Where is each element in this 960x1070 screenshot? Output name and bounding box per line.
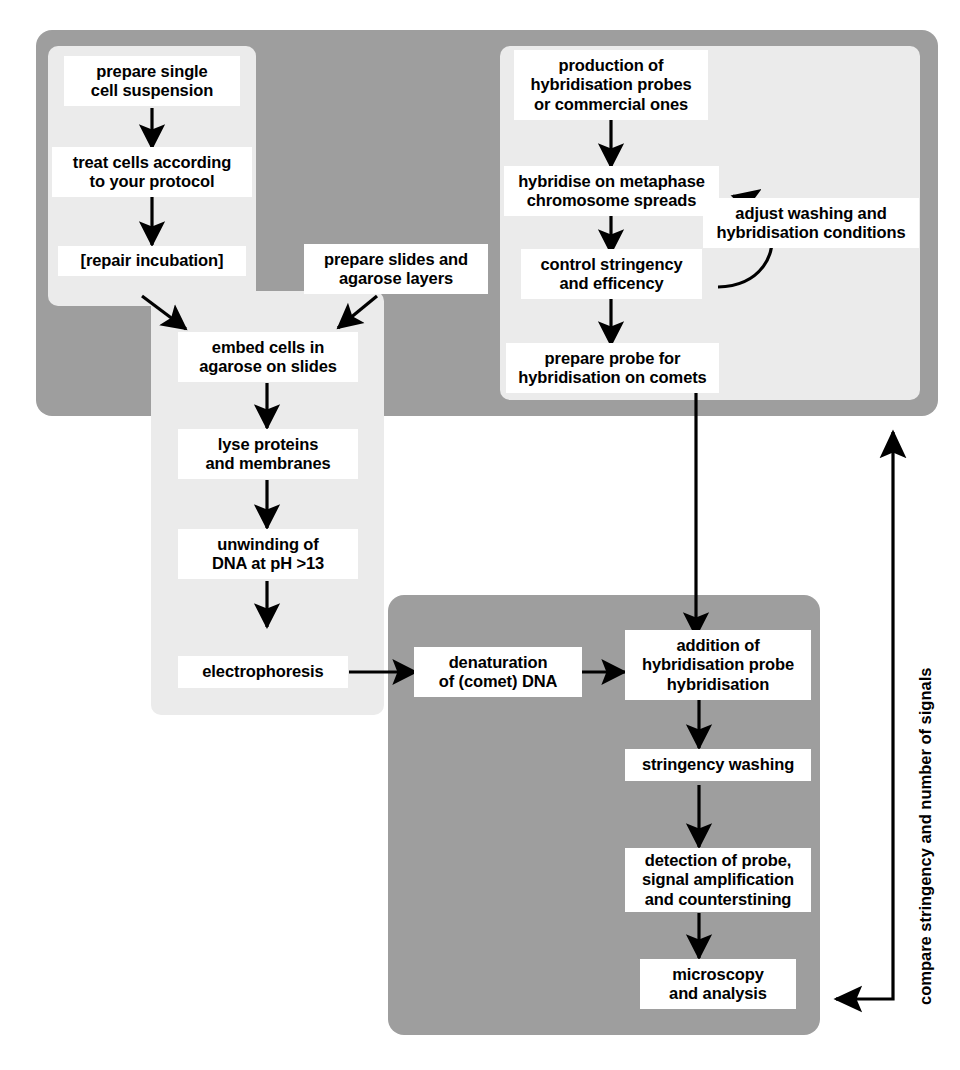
node-repair-incubation[interactable]: [repair incubation]: [58, 246, 246, 276]
node-production-of-hybridisation-probes[interactable]: production of hybridisation probes or co…: [514, 50, 708, 120]
node-electrophoresis[interactable]: electrophoresis: [178, 656, 348, 688]
node-stringency-washing[interactable]: stringency washing: [625, 749, 811, 781]
node-hybridise-on-metaphase-chromosome-spreads[interactable]: hybridise on metaphase chromosome spread…: [504, 166, 719, 216]
flowchart-canvas: prepare single cell suspension treat cel…: [0, 0, 960, 1070]
node-detection-of-probe[interactable]: detection of probe, signal amplification…: [625, 848, 811, 912]
node-addition-of-hybridisation-probe[interactable]: addition of hybridisation probe hybridis…: [625, 630, 811, 700]
node-prepare-probe-for-hybridisation-on-comets[interactable]: prepare probe for hybridisation on comet…: [506, 343, 719, 393]
node-prepare-single-cell-suspension[interactable]: prepare single cell suspension: [64, 56, 240, 106]
feedback-loop-label: compare stringency and number of signals: [916, 668, 935, 1005]
node-unwinding-of-dna[interactable]: unwinding of DNA at pH >13: [178, 529, 358, 579]
node-control-stringency-and-efficency[interactable]: control stringency and efficency: [521, 249, 702, 299]
node-prepare-slides-and-agarose-layers[interactable]: prepare slides and agarose layers: [304, 244, 488, 294]
node-adjust-washing-and-hybridisation-conditions[interactable]: adjust washing and hybridisation conditi…: [703, 198, 919, 248]
node-microscopy-and-analysis[interactable]: microscopy and analysis: [640, 959, 796, 1009]
node-denaturation-of-comet-dna[interactable]: denaturation of (comet) DNA: [414, 647, 582, 697]
node-embed-cells-in-agarose-on-slides[interactable]: embed cells in agarose on slides: [178, 332, 358, 382]
node-lyse-proteins-and-membranes[interactable]: lyse proteins and membranes: [178, 429, 358, 479]
edge-feedback-loop: [846, 432, 893, 999]
node-treat-cells-according-to-your-protocol[interactable]: treat cells according to your protocol: [52, 147, 252, 197]
